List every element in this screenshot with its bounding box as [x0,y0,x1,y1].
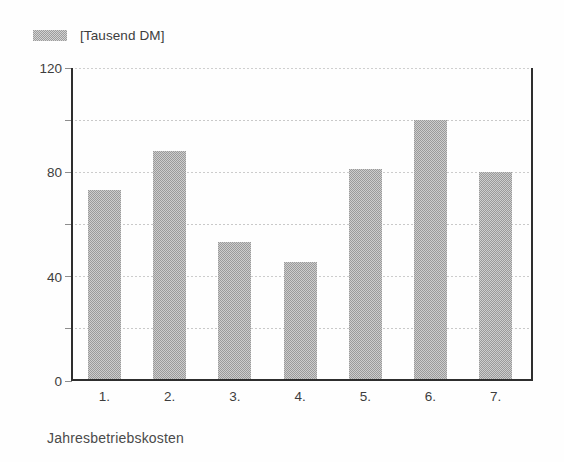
x-axis-label: 7. [476,389,516,404]
y-axis-label: 40 [47,269,62,284]
x-axis-labels: 1.2.3.4.5.6.7. [71,389,533,413]
plot-area [71,68,533,381]
legend-swatch-icon [33,30,67,41]
y-axis-label: 0 [54,374,62,389]
x-axis-label: 5. [345,389,385,404]
bar [88,190,121,379]
axis-spine-left [71,68,73,381]
bar [153,151,186,379]
bar [218,242,251,379]
x-axis-label: 3. [215,389,255,404]
x-axis-label: 2. [150,389,190,404]
x-axis-label: 6. [411,389,451,404]
axis-spine-bottom [71,379,533,381]
bar [284,262,317,379]
bar [349,169,382,379]
y-axis-label: 80 [47,165,62,180]
y-axis-label: 120 [39,61,62,76]
x-axis-label: 1. [85,389,125,404]
x-axis-title: Jahresbetriebskosten [47,430,184,446]
bar [414,120,447,379]
chart-legend: [Tausend DM] [33,24,165,46]
y-axis-labels: 04080120 [18,68,62,381]
axis-spine-right [531,68,533,381]
x-axis-label: 4. [280,389,320,404]
bar-chart-figure: [Tausend DM] 04080120 1.2.3.4.5.6.7. Jah… [0,0,564,462]
bar-series [71,68,533,379]
legend-label: [Tausend DM] [80,28,165,43]
bar [479,172,512,379]
